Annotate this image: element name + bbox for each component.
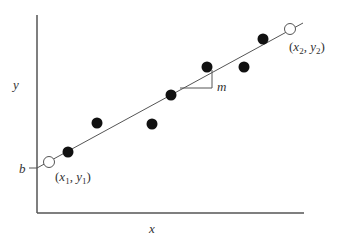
intercept-label: b — [19, 161, 26, 176]
data-points — [63, 34, 269, 158]
endpoint-1-marker — [44, 157, 55, 168]
endpoint-2-label: (x2, y2) — [289, 39, 325, 56]
slope-triangle — [180, 70, 212, 88]
data-point — [63, 147, 74, 158]
endpoint-2-marker — [285, 24, 296, 35]
data-point — [166, 90, 177, 101]
data-point — [202, 62, 213, 73]
paren-close: ) — [86, 169, 90, 184]
endpoint-1-label: (x1, y1) — [55, 169, 91, 186]
data-point — [258, 34, 269, 45]
data-point — [239, 62, 250, 73]
y-axis-label: y — [11, 77, 19, 92]
data-point — [92, 118, 103, 129]
data-point — [147, 119, 158, 130]
paren-close: ) — [320, 39, 324, 54]
slope-label: m — [217, 79, 226, 94]
x-axis-label: x — [148, 221, 155, 236]
regression-diagram: y x b m (x1, y1) (x2, y2) — [0, 0, 339, 245]
